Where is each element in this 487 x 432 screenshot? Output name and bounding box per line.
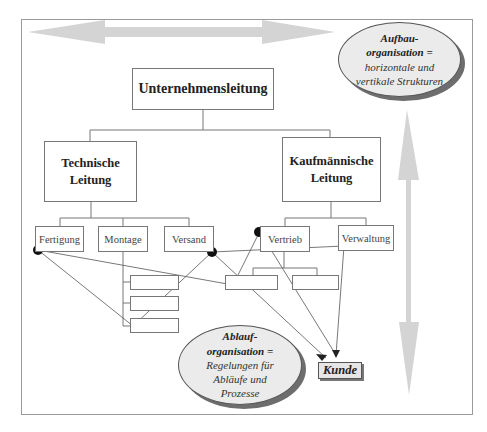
aufbau-title-line1: Aufbau- [381, 31, 419, 45]
box-kaufmaennische-leitung: Kaufmännische Leitung [282, 137, 381, 202]
montage-subunit-2 [130, 296, 179, 311]
versand-label: Versand [172, 234, 206, 245]
aufbau-desc-line1: horizontale und [365, 60, 434, 74]
kaufmaennische-leitung-line1: Kaufmännische [289, 153, 373, 169]
ablauf-desc-line3: Prozesse [221, 386, 260, 400]
box-unternehmensleitung: Unternehmensleitung [132, 68, 274, 110]
technische-leitung-line1: Technische [61, 155, 120, 171]
ablauforganisation-callout: Ablauf- organisation = Regelungen für Ab… [178, 325, 302, 405]
box-vertrieb: Vertrieb [260, 226, 310, 252]
vertrieb-subunit-2 [292, 275, 339, 290]
aufbau-title-line2: organisation = [366, 45, 432, 59]
box-montage: Montage [98, 226, 148, 252]
vertrieb-label: Vertrieb [268, 234, 302, 245]
ablauf-title-line1: Ablauf- [223, 329, 258, 343]
fertigung-label: Fertigung [39, 234, 80, 245]
ablauf-desc-line2: Abläufe und [213, 372, 266, 386]
aufbau-desc-line2: vertikale Strukturen [356, 74, 443, 88]
kaufmaennische-leitung-line2: Leitung [311, 170, 353, 186]
customer-label: Kunde [323, 363, 357, 378]
aufbauorganisation-callout: Aufbau- organisation = horizontale und v… [338, 22, 461, 97]
verwaltung-label: Verwaltung [342, 233, 390, 244]
technische-leitung-line2: Leitung [70, 172, 112, 188]
ablauf-desc-line1: Regelungen für [206, 358, 274, 372]
vertrieb-subunit-1 [225, 275, 278, 290]
customer-box: Kunde [318, 362, 362, 379]
box-versand: Versand [164, 226, 214, 252]
vertical-double-arrow [398, 110, 419, 395]
montage-subunit-3 [130, 318, 179, 333]
montage-subunit-1 [130, 275, 179, 290]
top-management-label: Unternehmensleitung [138, 81, 267, 97]
ablauf-title-line2: organisation = [207, 344, 273, 358]
horizontal-double-arrow [28, 20, 335, 44]
box-technische-leitung: Technische Leitung [44, 141, 137, 202]
box-verwaltung: Verwaltung [338, 225, 394, 251]
montage-label: Montage [104, 234, 141, 245]
box-fertigung: Fertigung [35, 226, 84, 252]
